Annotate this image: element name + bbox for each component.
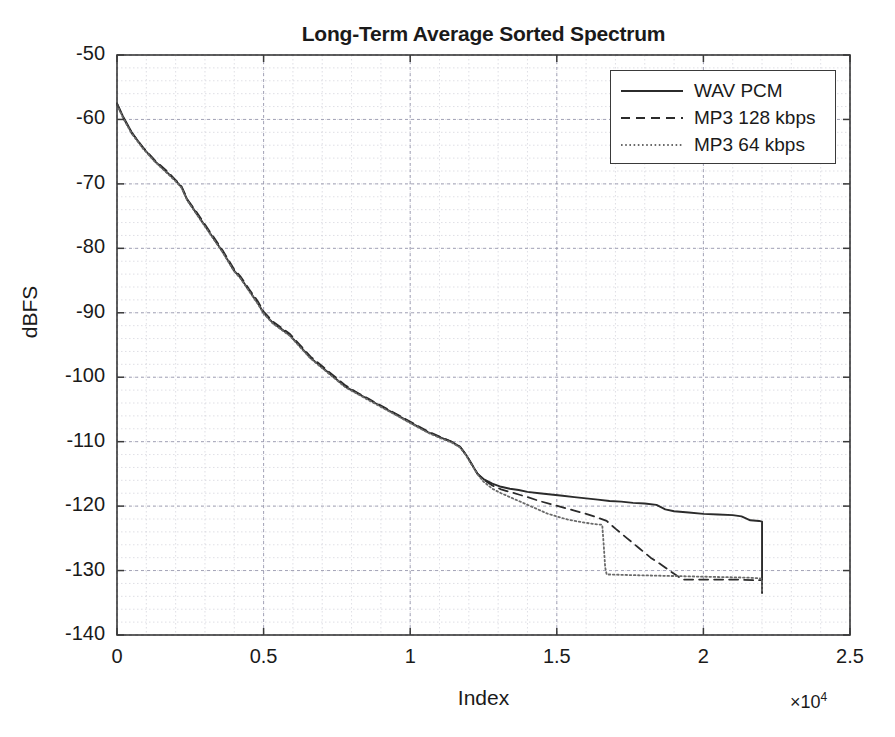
x-tick-label: 1.5 (522, 645, 592, 668)
legend-item-label: WAV PCM (694, 80, 783, 102)
legend-line-swatch-icon (619, 138, 685, 152)
y-tick-label: -80 (35, 235, 105, 258)
legend-line-swatch-icon (619, 84, 685, 98)
legend-item-1[interactable]: WAV PCM (619, 77, 827, 104)
x-tick-label: 2 (668, 645, 738, 668)
x-exponent-power: 4 (821, 690, 828, 704)
legend-item-label: MP3 64 kbps (694, 134, 805, 156)
y-tick-label: -110 (35, 429, 105, 452)
y-tick-label: -120 (35, 493, 105, 516)
legend-item-3[interactable]: MP3 64 kbps (619, 131, 827, 158)
y-tick-label: -140 (35, 622, 105, 645)
x-axis-exponent: ×104 (790, 690, 827, 713)
y-tick-label: -90 (35, 300, 105, 323)
x-exponent-base: ×10 (790, 692, 821, 712)
legend-item-2[interactable]: MP3 128 kbps (619, 104, 827, 131)
y-tick-label: -60 (35, 106, 105, 129)
x-axis-label: Index (117, 686, 850, 710)
y-tick-label: -130 (35, 558, 105, 581)
legend-line-swatch-icon (619, 111, 685, 125)
legend-item-label: MP3 128 kbps (694, 107, 815, 129)
y-tick-label: -100 (35, 364, 105, 387)
x-tick-label: 0.5 (229, 645, 299, 668)
x-tick-label: 0 (82, 645, 152, 668)
figure-canvas: Long-Term Average Sorted Spectrum dBFS I… (0, 0, 895, 737)
x-tick-label: 1 (375, 645, 445, 668)
x-tick-label: 2.5 (815, 645, 885, 668)
legend: WAV PCMMP3 128 kbpsMP3 64 kbps (610, 70, 836, 164)
y-tick-label: -50 (35, 42, 105, 65)
y-tick-label: -70 (35, 171, 105, 194)
